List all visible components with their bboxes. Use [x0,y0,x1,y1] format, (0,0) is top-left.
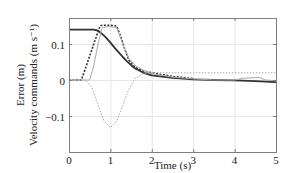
x-tick-label: 0 [66,154,72,166]
line-chart: 012345 −0.100.1 Time (s) Error (m)Veloci… [0,0,292,173]
y-tick-labels: −0.100.1 [45,39,65,123]
series-group [69,25,276,127]
y-tick-label: 0 [60,75,66,87]
x-tick-label: 4 [232,154,238,166]
plot-frame [70,19,277,153]
y-axis-label-velocity: Velocity commands (m s⁻¹) [27,24,40,146]
y-tick-label: 0.1 [51,39,65,51]
x-tick-label: 5 [273,154,279,166]
x-tick-label: 1 [108,154,114,166]
grid-lines [69,18,277,152]
y-axis-label: Error (m)Velocity commands (m s⁻¹) [14,24,40,146]
x-axis-label: Time (s) [154,159,192,172]
tick-marks [69,18,277,152]
x-tick-label: 3 [190,154,196,166]
series-velocity-command [69,25,193,80]
y-tick-label: −0.1 [45,111,65,123]
y-axis-label-error: Error (m) [14,64,27,106]
